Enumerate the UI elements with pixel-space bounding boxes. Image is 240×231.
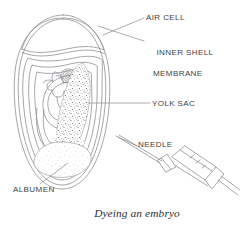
syringe-barrel-edge <box>176 166 208 186</box>
label-needle: NEEDLE <box>138 140 173 151</box>
label-inner-shell-line1: INNER SHELL <box>156 48 213 57</box>
syringe-barrel <box>172 146 216 180</box>
label-albumen: ALBUMEN <box>13 185 55 196</box>
syringe-plunger-rod-2 <box>221 176 240 190</box>
label-inner-shell-membrane: INNER SHELL MEMBRANE <box>146 37 213 102</box>
leader-line-air-cell <box>103 18 144 35</box>
label-air-cell: AIR CELL <box>146 13 185 24</box>
label-inner-shell-line2: MEMBRANE <box>146 69 213 80</box>
diagram-artwork <box>0 0 240 231</box>
label-yolk-sac: YOLK SAC <box>152 99 195 110</box>
syringe-plunger-rod <box>218 180 238 195</box>
air-cell-inner-curve <box>23 50 105 56</box>
needle-hub <box>158 154 176 172</box>
leader-line-inner-shell <box>98 26 144 41</box>
leader-line-needle <box>116 136 137 146</box>
egg-embryo-diagram: AIR CELL INNER SHELL MEMBRANE YOLK SAC N… <box>0 0 240 231</box>
albumen-mass <box>34 142 91 177</box>
figure-caption: Dyeing an embryo <box>72 207 202 219</box>
